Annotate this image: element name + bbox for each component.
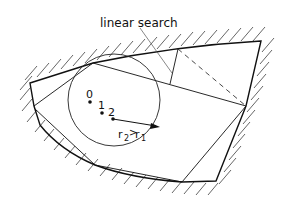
inscribed-circle bbox=[68, 54, 160, 146]
arrowhead-icon bbox=[150, 123, 160, 129]
point-0-label: 0 bbox=[86, 88, 93, 101]
search-chords bbox=[34, 49, 246, 182]
point-1-label: 1 bbox=[98, 99, 105, 112]
diagram-canvas: linear search 0 1 2 r 2 > r 1 bbox=[0, 0, 289, 216]
svg-text:r: r bbox=[135, 128, 140, 141]
point-2-label: 2 bbox=[108, 106, 115, 119]
svg-text:1: 1 bbox=[141, 134, 146, 143]
linear-search-dashed-line bbox=[178, 49, 246, 106]
radius-relation-label: r 2 > r 1 bbox=[118, 127, 146, 143]
boundary-hatching bbox=[20, 27, 274, 195]
linear-search-label: linear search bbox=[100, 16, 178, 30]
svg-text:r: r bbox=[118, 128, 123, 141]
domain-boundary bbox=[30, 41, 261, 182]
radius-arrow bbox=[113, 119, 156, 126]
